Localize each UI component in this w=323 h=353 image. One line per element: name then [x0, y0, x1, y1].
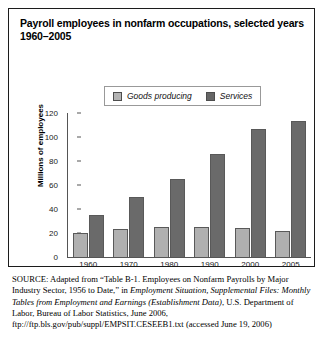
- chart-frame: Payroll employees in nonfarm occupations…: [8, 8, 315, 267]
- y-axis-tick-label: 60: [49, 181, 58, 190]
- bar-group: [149, 113, 190, 257]
- bar-services-1960: [89, 215, 104, 257]
- plot-area: Millions of employees 020406080100120 19…: [23, 113, 311, 263]
- y-axis-tick-label: 100: [45, 133, 58, 142]
- figure-container: Payroll employees in nonfarm occupations…: [0, 0, 323, 353]
- bar-group: [271, 113, 312, 257]
- bar-goods-producing-2005: [275, 231, 290, 257]
- x-axis-tick-label: 2005: [271, 260, 312, 269]
- source-note-label: SOURCE:: [12, 274, 48, 284]
- x-axis-tick-label: 1990: [190, 260, 231, 269]
- legend-item-goods-producing: Goods producing: [113, 91, 192, 101]
- x-axis-tick-label: 2000: [230, 260, 271, 269]
- y-axis-tick-label: 40: [49, 205, 58, 214]
- y-axis-tick-label: 80: [49, 157, 58, 166]
- chart-title: Payroll employees in nonfarm occupations…: [20, 17, 305, 43]
- bar-group: [68, 113, 109, 257]
- bar-goods-producing-1990: [194, 227, 209, 257]
- bar-services-1990: [210, 154, 225, 257]
- bar-services-2005: [291, 121, 306, 257]
- bar-goods-producing-1970: [113, 229, 128, 257]
- y-axis-tick-label: 0: [54, 253, 58, 262]
- y-axis-ticks: 020406080100120: [37, 113, 63, 257]
- bar-group: [230, 113, 271, 257]
- bar-groups: [68, 113, 311, 257]
- bar-services-1980: [170, 179, 185, 257]
- y-axis-tick-label: 120: [45, 109, 58, 118]
- legend-swatch-services-icon: [206, 92, 215, 101]
- chart-legend: Goods producing Services: [104, 86, 261, 106]
- x-axis-tick-label: 1960: [68, 260, 109, 269]
- bar-group: [190, 113, 231, 257]
- legend-item-services: Services: [206, 91, 253, 101]
- legend-label-goods-producing: Goods producing: [127, 91, 192, 101]
- bar-goods-producing-2000: [235, 228, 250, 257]
- y-axis-tick-label: 20: [49, 229, 58, 238]
- legend-label-services: Services: [220, 91, 253, 101]
- source-note: SOURCE: Adapted from “Table B-1. Employe…: [12, 274, 312, 330]
- bar-goods-producing-1960: [73, 233, 88, 257]
- x-axis-labels: 196019701980199020002005: [68, 260, 311, 269]
- bar-services-1970: [129, 197, 144, 257]
- bar-goods-producing-1980: [154, 227, 169, 257]
- x-axis-tick-label: 1980: [149, 260, 190, 269]
- bar-group: [109, 113, 150, 257]
- x-axis-line: [67, 257, 311, 258]
- x-axis-tick-label: 1970: [109, 260, 150, 269]
- legend-swatch-goods-icon: [113, 92, 122, 101]
- bar-services-2000: [251, 129, 266, 257]
